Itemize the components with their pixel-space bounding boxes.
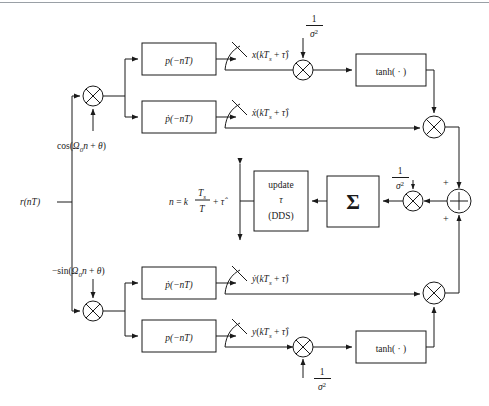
product-multiplier-top[interactable] xyxy=(423,116,445,138)
gain-inverse-sigma-sq-center: 1 σ2 xyxy=(392,166,413,191)
inphase-split-wires xyxy=(103,59,138,117)
inphase-carrier-group: cos(Ω0n + θ) xyxy=(57,109,106,154)
gain-top-denominator: σ2 xyxy=(310,28,319,39)
summation-glyph: Σ xyxy=(346,190,360,214)
block-matched-filter-top[interactable]: p(−nT) xyxy=(142,43,216,75)
adder-sign-bottom: + xyxy=(443,213,449,224)
multiplier-center-gain[interactable] xyxy=(403,191,423,211)
carrier-sin-label: −sin(Ω0n + θ) xyxy=(52,266,105,279)
diagram-svg: r(nT) cos(Ω0n + θ) xyxy=(0,0,489,406)
downsampler-y[interactable]: y(kTs + τ̂) xyxy=(216,319,293,347)
input-label: r(nT) xyxy=(20,197,40,208)
input-signal-group: r(nT) xyxy=(20,96,80,311)
update-block-line2: τ xyxy=(279,195,283,205)
quadrature-carrier-group: −sin(Ω0n + θ) xyxy=(52,266,105,298)
signal-x-label: x(kTs + τ̂) xyxy=(251,50,289,63)
quadrature-split-wires xyxy=(103,283,138,336)
bottom-product-to-adder xyxy=(445,215,459,293)
tanh-bottom-output-wire xyxy=(426,307,434,347)
tanh-top-output-wire xyxy=(426,70,434,113)
tanh-top-label: tanh( · ) xyxy=(376,67,407,78)
gain-center-denominator: σ2 xyxy=(396,180,405,191)
signal-x-dot-label: ẋ(kTs + τ̂) xyxy=(251,108,289,121)
downsampler-y-dot[interactable]: ẏ(kTs + τ̂) xyxy=(216,266,420,294)
block-derivative-filter-top[interactable]: ṗ(−nT) xyxy=(142,101,216,133)
sampler-xdot-arc xyxy=(225,104,240,128)
block-update-dds[interactable]: update τ (DDS) xyxy=(254,171,327,231)
adder-sign-top: + xyxy=(443,177,449,188)
tanh-bottom-label: tanh( · ) xyxy=(376,344,407,355)
multiplier-x-gain-top[interactable] xyxy=(293,60,313,80)
derivative-filter-top-label: ṗ(−nT) xyxy=(164,114,193,125)
update-block-line3: (DDS) xyxy=(268,211,293,222)
signal-y-label: y(kTs + τ̂) xyxy=(251,327,289,340)
gain-center-numerator: 1 xyxy=(398,166,403,176)
index-equation-frac-num: Ts xyxy=(198,188,206,201)
product-multiplier-bottom[interactable] xyxy=(423,282,445,304)
update-block-line1: update xyxy=(268,180,293,190)
matched-filter-bottom-label: p(−nT) xyxy=(164,333,193,344)
downsampler-x-dot[interactable]: ẋ(kTs + τ̂) xyxy=(216,100,420,128)
gain-bottom-numerator: 1 xyxy=(320,367,325,377)
matched-filter-top-label: p(−nT) xyxy=(164,56,193,67)
block-diagram-canvas: r(nT) cos(Ω0n + θ) xyxy=(0,0,489,406)
sampler-x-arc xyxy=(225,46,240,70)
gain-inverse-sigma-sq-top: 1 σ2 xyxy=(303,14,323,58)
inphase-mixer[interactable] xyxy=(83,86,103,106)
error-adder[interactable]: + + xyxy=(443,177,471,224)
sampler-y-arc xyxy=(225,323,240,347)
block-derivative-filter-bottom[interactable]: ṗ(−nT) xyxy=(142,267,216,299)
quadrature-mixer[interactable] xyxy=(83,301,103,321)
timing-index-group: n = k Ts T + τ̂ xyxy=(169,164,254,240)
block-tanh-bottom[interactable]: tanh( · ) xyxy=(313,331,426,363)
signal-y-dot-label: ẏ(kTs + τ̂) xyxy=(251,274,289,287)
index-equation-rhs: + τ̂ xyxy=(213,197,228,207)
block-summation[interactable]: Σ xyxy=(327,176,403,227)
block-tanh-top[interactable]: tanh( · ) xyxy=(313,54,426,86)
carrier-cos-label: cos(Ω0n + θ) xyxy=(57,141,106,154)
gain-bottom-denominator: σ2 xyxy=(318,381,327,392)
block-matched-filter-bottom[interactable]: p(−nT) xyxy=(142,320,216,352)
gain-top-numerator: 1 xyxy=(312,14,317,24)
index-equation-frac-den: T xyxy=(199,204,205,214)
downsampler-x[interactable]: x(kTs + τ̂) xyxy=(216,42,306,70)
derivative-filter-bottom-label: ṗ(−nT) xyxy=(164,280,193,291)
gain-inverse-sigma-sq-bottom: 1 σ2 xyxy=(303,359,331,392)
multiplier-y-gain-bottom[interactable] xyxy=(293,337,313,357)
sampler-ydot-arc xyxy=(225,270,240,294)
index-equation-lhs: n = k xyxy=(169,197,189,207)
